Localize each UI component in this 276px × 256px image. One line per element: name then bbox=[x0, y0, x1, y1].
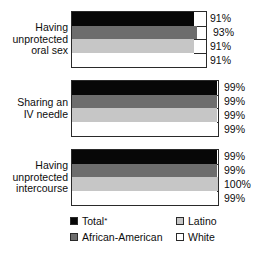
group-label-iv-needle: Sharing an IV needle bbox=[0, 97, 68, 120]
bar-row bbox=[72, 95, 218, 108]
bar-latino-intercourse bbox=[72, 177, 218, 191]
bar-latino-iv-needle bbox=[72, 108, 217, 122]
legend-swatch-white-icon bbox=[176, 233, 184, 241]
legend-label-african-american: African-American bbox=[82, 231, 163, 243]
value-label-african-american-intercourse: 99% bbox=[224, 165, 245, 176]
value-label-white-iv-needle: 99% bbox=[224, 124, 245, 135]
bar-row bbox=[72, 191, 218, 205]
bar-row bbox=[72, 150, 218, 164]
bar-row bbox=[72, 108, 218, 122]
legend-item-african-american: African-American bbox=[70, 231, 163, 243]
legend-label-total: Total bbox=[82, 215, 104, 227]
bar-white-oral-sex bbox=[72, 53, 194, 67]
bar-total-oral-sex bbox=[72, 12, 194, 26]
bar-african-american-iv-needle bbox=[72, 95, 217, 108]
bar-row bbox=[72, 53, 206, 67]
bar-chart: Having unprotected oral sex 91% 93% 91% … bbox=[0, 0, 276, 256]
bar-african-american-oral-sex bbox=[72, 26, 197, 39]
legend-label-white: White bbox=[188, 231, 215, 243]
value-label-african-american-oral-sex: 93% bbox=[213, 27, 234, 38]
value-label-total-oral-sex: 91% bbox=[210, 13, 231, 24]
group-label-intercourse: Having unprotected intercourse bbox=[0, 160, 68, 195]
bar-row bbox=[72, 81, 218, 95]
bar-row bbox=[72, 177, 218, 191]
legend-swatch-latino-icon bbox=[176, 217, 184, 225]
value-label-white-intercourse: 99% bbox=[224, 193, 245, 204]
bar-latino-oral-sex bbox=[72, 39, 194, 53]
value-label-latino-oral-sex: 91% bbox=[210, 41, 231, 52]
legend-item-total: Total* bbox=[70, 215, 107, 227]
bar-row bbox=[72, 39, 206, 53]
legend-item-latino: Latino bbox=[176, 215, 217, 227]
chart-legend: Total* Latino African-American White bbox=[70, 215, 260, 247]
plot-area-oral-sex bbox=[71, 11, 207, 68]
legend-item-white: White bbox=[176, 231, 215, 243]
value-label-latino-iv-needle: 99% bbox=[224, 110, 245, 121]
bar-row bbox=[72, 12, 206, 26]
legend-label-latino: Latino bbox=[188, 215, 217, 227]
legend-swatch-african-american-icon bbox=[70, 233, 78, 241]
value-label-latino-intercourse: 100% bbox=[224, 179, 251, 190]
bar-row bbox=[72, 164, 218, 177]
legend-swatch-total-icon bbox=[70, 217, 78, 225]
value-label-african-american-iv-needle: 99% bbox=[224, 96, 245, 107]
value-label-total-iv-needle: 99% bbox=[224, 82, 245, 93]
bar-white-intercourse bbox=[72, 191, 217, 205]
bar-african-american-intercourse bbox=[72, 164, 217, 177]
value-label-white-oral-sex: 91% bbox=[210, 55, 231, 66]
bar-total-iv-needle bbox=[72, 81, 217, 95]
plot-area-intercourse bbox=[71, 149, 219, 206]
plot-area-iv-needle bbox=[71, 80, 219, 137]
bar-row bbox=[72, 122, 218, 136]
bar-row bbox=[72, 26, 206, 39]
value-label-total-intercourse: 99% bbox=[224, 151, 245, 162]
group-label-oral-sex: Having unprotected oral sex bbox=[0, 22, 68, 57]
bar-white-iv-needle bbox=[72, 122, 217, 136]
bar-total-intercourse bbox=[72, 150, 217, 164]
